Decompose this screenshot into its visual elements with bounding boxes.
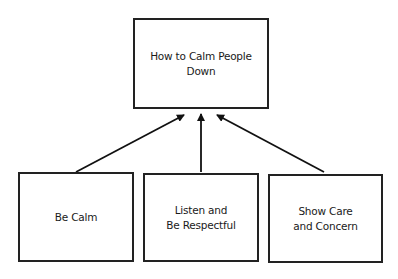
arrow-right <box>217 115 324 172</box>
child-box-be-calm: Be Calm <box>18 172 134 262</box>
child-label-show-care: Show Care and Concern <box>293 204 357 234</box>
child-label-be-calm: Be Calm <box>55 210 98 225</box>
root-label: How to Calm People Down <box>135 49 267 79</box>
arrow-left <box>76 115 184 172</box>
child-label-listen: Listen and Be Respectful <box>166 203 235 233</box>
child-box-listen: Listen and Be Respectful <box>143 173 259 262</box>
root-box: How to Calm People Down <box>133 18 269 109</box>
child-box-show-care: Show Care and Concern <box>268 174 383 263</box>
